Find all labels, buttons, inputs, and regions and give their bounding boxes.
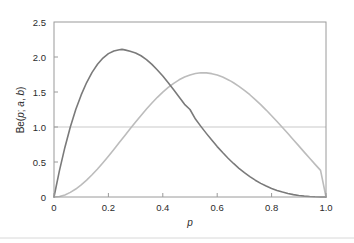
x-tick-label: 0.4 bbox=[156, 202, 169, 213]
y-tick-label: 1.0 bbox=[33, 122, 46, 133]
x-tick-label: 0.2 bbox=[102, 202, 115, 213]
y-tick-label: 0.5 bbox=[33, 157, 46, 168]
y-tick-label: 1.5 bbox=[33, 87, 46, 98]
chart-figure: 00.20.40.60.81.0 00.51.01.52.02.5 p Be(p… bbox=[0, 0, 354, 243]
x-tick-label: 0.8 bbox=[265, 202, 278, 213]
y-tick-label: 0 bbox=[41, 192, 46, 203]
y-axis-title-text: Be(p; a, b) bbox=[15, 87, 26, 134]
y-tick-label: 2.5 bbox=[33, 17, 46, 28]
beta-distribution-chart: 00.20.40.60.81.0 00.51.01.52.02.5 p Be(p… bbox=[0, 0, 354, 243]
x-tick-label: 1.0 bbox=[319, 202, 332, 213]
x-axis-title: p bbox=[186, 217, 193, 228]
y-tick-label: 2.0 bbox=[33, 52, 46, 63]
y-axis-title: Be(p; a, b) bbox=[15, 87, 26, 134]
x-tick-label: 0.6 bbox=[211, 202, 224, 213]
x-tick-label: 0 bbox=[51, 202, 56, 213]
